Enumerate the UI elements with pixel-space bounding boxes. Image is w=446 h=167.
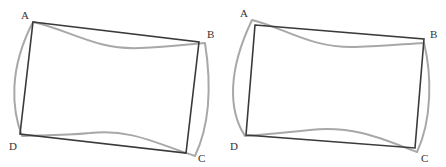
deformed-shape-right bbox=[233, 20, 429, 152]
vertex-label-a-right: A bbox=[240, 7, 248, 19]
vertex-label-d-left: D bbox=[9, 140, 17, 152]
deformation-diagrams: A B C D A B C D bbox=[0, 0, 446, 167]
vertex-label-b-right: B bbox=[430, 28, 437, 40]
vertex-label-c-right: C bbox=[421, 152, 428, 164]
original-quad-left bbox=[20, 22, 199, 153]
vertex-label-c-left: C bbox=[198, 152, 205, 164]
vertex-label-d-right: D bbox=[230, 140, 238, 152]
vertex-label-b-left: B bbox=[207, 28, 214, 40]
figure-right: A B C D bbox=[230, 7, 437, 164]
vertex-label-a-left: A bbox=[21, 9, 29, 21]
figure-left: A B C D bbox=[9, 9, 214, 164]
diagram-canvas: A B C D A B C D bbox=[0, 0, 446, 167]
